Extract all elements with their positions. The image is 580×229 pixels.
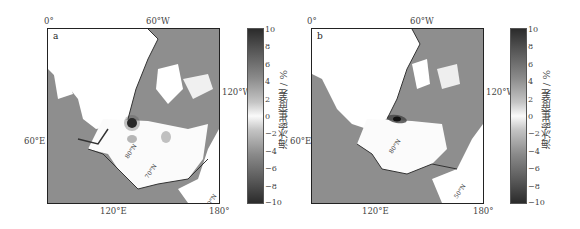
lon-label-60e: 60°E [290, 137, 311, 146]
panel-letter-a: a [50, 31, 61, 42]
colorbar-b [510, 28, 527, 204]
lon-label-0: 0° [307, 17, 317, 26]
lon-label-0: 0° [44, 17, 54, 26]
lon-label-180: 180° [209, 207, 229, 216]
lon-label-120e: 120°E [362, 207, 389, 216]
lon-label-180: 180° [473, 207, 493, 216]
lon-label-60w: 60°W [410, 17, 434, 26]
panel-letter-b: b [314, 31, 326, 42]
map-b-geography: 80°N 50°N [312, 29, 483, 203]
map-a: 80°N 70°N 50°N a [47, 28, 220, 204]
colorbar-b-title: 海冰密集度差 / % [539, 70, 554, 149]
lon-label-120e: 120°E [100, 207, 127, 216]
panel-b: 80°N 50°N b 0° 60°W 120°W 60°E 120°E 180… [290, 0, 580, 229]
colorbar-a-title: 海冰密集度差 / % [276, 70, 291, 149]
lon-label-60e: 60°E [24, 137, 45, 146]
map-b: 80°N 50°N b [311, 28, 484, 204]
lon-label-60w: 60°W [146, 17, 170, 26]
panel-a: 80°N 70°N 50°N a 0° 60°W 120°W 60°E 120°… [0, 0, 290, 229]
colorbar-a [247, 28, 264, 204]
map-a-geography: 80°N 70°N 50°N [48, 29, 219, 203]
